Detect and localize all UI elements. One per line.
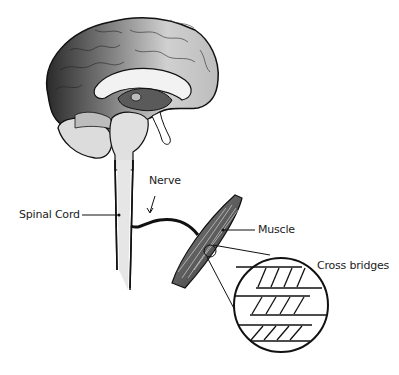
cross-bridges-circle: [234, 258, 328, 352]
brain: [47, 18, 219, 170]
diagram-canvas: Nerve Spinal Cord Muscle Cross bridges: [0, 0, 399, 375]
label-spinal-cord: Spinal Cord: [19, 208, 80, 221]
muscle: [172, 195, 242, 288]
label-nerve: Nerve: [149, 174, 181, 187]
label-cross-bridges: Cross bridges: [317, 259, 389, 272]
label-muscle: Muscle: [258, 223, 295, 236]
nerve: [131, 220, 198, 235]
